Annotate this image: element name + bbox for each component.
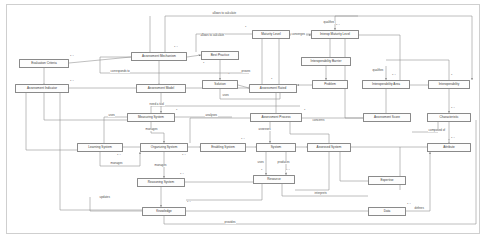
edge-label-manages-reasoning: manages (154, 164, 167, 167)
multiplicity-ap-right: 1 (304, 109, 305, 112)
node-expertise[interactable]: Expertise (368, 176, 406, 185)
edge-label-analyses: analyses (205, 114, 218, 117)
node-measuring-system[interactable]: Measuring System (127, 113, 175, 122)
edge-label-defines: defines (414, 207, 425, 210)
multiplicity-iml-top: 1..* (336, 24, 340, 27)
node-knowledge[interactable]: Knowledge (142, 207, 186, 216)
node-assessment-process[interactable]: Assessment Process (250, 113, 302, 122)
multiplicity-ai-right: 1..* (70, 80, 74, 83)
node-solution[interactable]: Solution (202, 80, 238, 89)
node-interop-maturity-level[interactable]: Interop Maturity Level (311, 30, 359, 39)
multiplicity-rs-top: 1..* (180, 173, 184, 176)
edge-label-concerns: concerns (312, 119, 325, 122)
edge-label-uses-measuring: uses (108, 114, 115, 117)
node-assessment-rated[interactable]: Assessment Rated (249, 84, 297, 93)
node-assessment-score[interactable]: Assessment Score (363, 113, 411, 122)
edge-label-produces: produces (277, 161, 290, 164)
multiplicity-sys-bottom: 1 (261, 169, 262, 172)
multiplicity-kn-top: 1..* (187, 201, 191, 204)
node-enabling-system[interactable]: Enabling System (200, 143, 246, 152)
node-data[interactable]: Data (368, 207, 406, 216)
multiplicity-interop-top: 1 (451, 74, 452, 77)
edge-label-allows-to-calculate-mid: allows to calculate (200, 34, 225, 37)
edge-label-uses-system: uses (257, 161, 264, 164)
multiplicity-ar-top: 1 (271, 78, 272, 81)
node-best-practice[interactable]: Best Practice (201, 51, 239, 60)
edge-label-updates: updates (99, 196, 110, 199)
node-maturity-level[interactable]: Maturity Level (252, 30, 290, 39)
edge-label-corresponds-to: corresponds to (110, 70, 130, 73)
edge-label-converges: converges (291, 33, 306, 36)
multiplicity-ls-bottom: 1..* (117, 154, 121, 157)
multiplicity-data-right: 1..* (407, 203, 411, 206)
multiplicity-ia-top: 1..* (392, 74, 396, 77)
multiplicity-solution-top: 1 (228, 73, 229, 76)
node-assessed-system[interactable]: Assessed System (307, 143, 351, 152)
uml-class-diagram: Evaluation Criteria Assessment Indicator… (0, 0, 486, 238)
edge-label-interprets: interprets (314, 192, 327, 195)
node-characteristic[interactable]: Characteristic (427, 113, 471, 122)
multiplicity-char-top: 1..* (451, 107, 455, 110)
edge-label-provides-bottom: provides (224, 221, 236, 224)
multiplicity-ml-left: 1 (245, 26, 246, 29)
edge-label-composed-of: composed of (428, 129, 446, 132)
node-learning-system[interactable]: Learning System (77, 143, 123, 152)
edge-label-assesses: assesses (258, 128, 271, 131)
node-assessment-indicator[interactable]: Assessment Indicator (15, 84, 69, 93)
edge-label-allows-to-calculate-top: allows to calculate (212, 12, 237, 15)
node-attribute[interactable]: Attribute (427, 143, 471, 152)
node-assessment-model[interactable]: Assessment Model (136, 84, 186, 93)
multiplicity-bp-bottom: 1 (203, 62, 204, 65)
node-problem[interactable]: Problem (312, 80, 348, 89)
edge-label-manages-learning: manages (110, 162, 123, 165)
multiplicity-attr-top: 1..* (451, 137, 455, 140)
node-organizing-system[interactable]: Organizing System (140, 143, 188, 152)
node-reasoning-system[interactable]: Reasoning System (137, 178, 185, 187)
multiplicity-am-top: 1..* (174, 46, 178, 49)
edge-label-manages-organizing: manages (145, 128, 158, 131)
edge-label-qualifies-top: qualifies (323, 21, 335, 24)
node-interoperability[interactable]: Interoperability (428, 80, 470, 89)
edge-label-qualifies-area: qualifies (372, 69, 384, 72)
node-interoperability-barrier[interactable]: Interoperability Barrier (301, 57, 351, 66)
edge-label-need-a-tool: need a tool (149, 103, 165, 106)
node-assessment-mechanism[interactable]: Assessment Mechanism (131, 52, 187, 61)
edge-label-proves: proves (241, 70, 251, 73)
node-evaluation-criteria[interactable]: Evaluation Criteria (19, 59, 69, 68)
multiplicity-ms-right: 1 (176, 109, 177, 112)
node-interoperability-area[interactable]: Interoperability Area (362, 80, 410, 89)
multiplicity-res-bottom: 1..* (286, 169, 290, 172)
diagram-edges (0, 0, 486, 238)
node-system[interactable]: System (256, 143, 296, 152)
node-resource[interactable]: Resource (253, 175, 295, 184)
multiplicity-os-bottom: 1..* (182, 154, 186, 157)
multiplicity-ec-right: 1..* (70, 55, 74, 58)
edge-label-uses-solution: uses (222, 94, 229, 97)
multiplicity-es-top: 1..* (241, 138, 245, 141)
